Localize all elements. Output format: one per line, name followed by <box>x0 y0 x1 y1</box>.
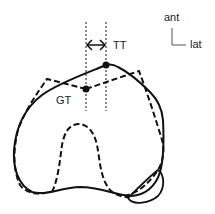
solid-outline <box>14 64 164 196</box>
orientation-indicator: ant lat <box>164 11 202 50</box>
ant-label: ant <box>164 11 179 23</box>
tt-gt-distance-arrow <box>87 40 105 50</box>
lat-label: lat <box>190 38 202 50</box>
notch-outline <box>52 124 128 197</box>
gt-label: GT <box>56 94 72 106</box>
tt-point <box>103 62 110 69</box>
tt-label: TT <box>113 39 127 51</box>
gt-point <box>83 86 90 93</box>
diagram-canvas: ant lat TT GT <box>0 0 215 214</box>
orientation-axes-icon <box>172 28 186 45</box>
bump-outline <box>128 170 163 203</box>
